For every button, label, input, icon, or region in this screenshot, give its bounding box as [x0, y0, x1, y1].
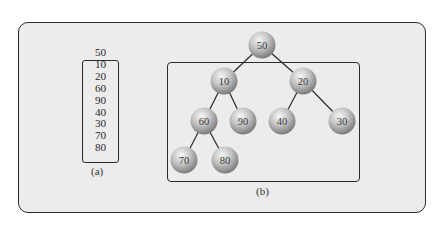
node-label: 70 — [179, 155, 190, 166]
tree-nodes: 501020609040307080 — [171, 32, 356, 174]
tree-node-90: 90 — [230, 108, 257, 135]
tree-node-70: 70 — [171, 147, 198, 174]
tree-edges — [184, 45, 342, 160]
tree-node-20: 20 — [290, 68, 317, 95]
node-label: 30 — [337, 116, 348, 127]
tree-node-60: 60 — [191, 108, 218, 135]
tree-node-30: 30 — [329, 108, 356, 135]
tree-node-80: 80 — [212, 147, 239, 174]
tree-diagram: 501020609040307080 — [0, 0, 441, 226]
node-label: 50 — [257, 40, 268, 51]
tree-node-40: 40 — [269, 108, 296, 135]
tree-node-50: 50 — [249, 32, 276, 59]
node-label: 20 — [298, 76, 309, 87]
node-label: 10 — [219, 76, 230, 87]
node-label: 90 — [238, 116, 249, 127]
node-label: 80 — [220, 155, 231, 166]
node-label: 40 — [277, 116, 288, 127]
tree-node-10: 10 — [211, 68, 238, 95]
node-label: 60 — [199, 116, 210, 127]
